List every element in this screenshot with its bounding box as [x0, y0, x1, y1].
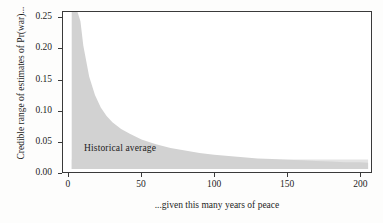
- x-tick-mark: [360, 173, 361, 177]
- x-tick-label: 150: [267, 179, 307, 189]
- y-tick-mark: [58, 48, 62, 49]
- chart-figure: Historical average 0.000.050.100.150.200…: [0, 0, 383, 223]
- annotation-historical-average: Historical average: [84, 143, 156, 153]
- y-tick-label-wrap: 0.00: [22, 167, 52, 179]
- plot-area: Historical average: [62, 11, 372, 173]
- y-tick-label: 0.15: [22, 74, 52, 84]
- x-tick-mark: [214, 173, 215, 177]
- x-axis-title: ...given this many years of peace: [62, 200, 372, 210]
- x-tick-label: 200: [340, 179, 380, 189]
- y-axis-title: Credible range of estimates of Pr(war)..…: [16, 0, 26, 168]
- x-tick-mark: [141, 173, 142, 177]
- y-tick-mark: [58, 173, 62, 174]
- x-tick-mark: [287, 173, 288, 177]
- x-tick-label: 100: [194, 179, 234, 189]
- y-tick-label: 0.05: [22, 136, 52, 146]
- y-tick-mark: [58, 17, 62, 18]
- y-tick-label-wrap: 0.15: [22, 74, 52, 86]
- y-tick-label: 0.00: [22, 167, 52, 177]
- y-tick-label-wrap: 0.05: [22, 136, 52, 148]
- y-tick-mark: [58, 142, 62, 143]
- y-tick-label-wrap: 0.25: [22, 11, 52, 23]
- y-tick-mark: [58, 80, 62, 81]
- y-tick-label: 0.10: [22, 105, 52, 115]
- y-tick-mark: [58, 111, 62, 112]
- y-tick-label: 0.25: [22, 11, 52, 21]
- x-tick-mark: [68, 173, 69, 177]
- y-tick-label: 0.20: [22, 42, 52, 52]
- x-tick-label: 0: [48, 179, 88, 189]
- y-tick-label-wrap: 0.10: [22, 105, 52, 117]
- y-tick-label-wrap: 0.20: [22, 42, 52, 54]
- x-tick-label: 50: [121, 179, 161, 189]
